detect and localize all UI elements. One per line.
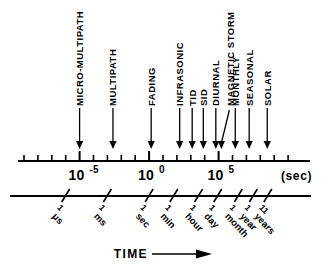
phenomenon-label: SEASONAL [244, 49, 255, 106]
time-scale-figure: MICRO-MULTIPATHMULTIPATHFADINGINFRASONIC… [0, 0, 321, 268]
phenomenon-label: FADING [146, 67, 157, 106]
phenomenon-label: MICRO-MULTIPATH [74, 11, 85, 106]
phenomenon-label: TID [187, 89, 198, 106]
phenomenon-label: INFRASONIC [174, 42, 185, 106]
tick-mantissa: 10 [138, 167, 154, 183]
phenomenon-label: MONTHLY [230, 56, 241, 106]
tick-exponent: -5 [90, 164, 99, 175]
tick-exponent: 0 [159, 164, 165, 175]
figure-canvas: MICRO-MULTIPATHMULTIPATHFADINGINFRASONIC… [0, 0, 321, 268]
time-label: TIME [114, 247, 148, 261]
phenomenon-label: SID [198, 89, 209, 106]
tick-mantissa: 10 [69, 167, 85, 183]
phenomenon-label: SOLAR [262, 70, 273, 106]
tick-exponent: 5 [229, 164, 235, 175]
tick-mantissa: 10 [208, 167, 224, 183]
phenomenon-label: MULTIPATH [107, 49, 118, 106]
phenomenon-label: DIURNAL [210, 60, 221, 106]
axis-unit-label: (sec) [281, 169, 312, 183]
